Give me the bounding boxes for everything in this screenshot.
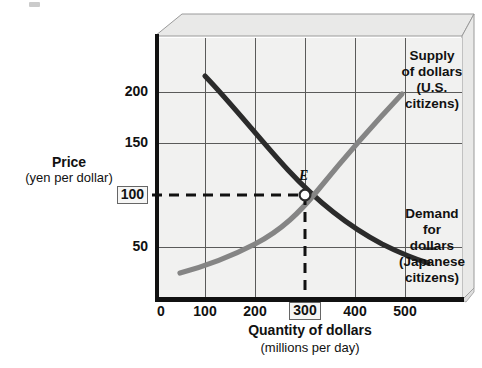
x-axis-title-sub: (millions per day) bbox=[160, 339, 460, 356]
y-tick-150: 150 bbox=[96, 134, 148, 152]
x-tick-500: 500 bbox=[385, 303, 425, 319]
demand-curve-label: Demand for dollars (Japanese citizens) bbox=[386, 206, 478, 286]
y-tick-100: 100 bbox=[96, 186, 148, 204]
x-tick-400: 400 bbox=[335, 303, 375, 319]
supply-curve-label: Supply of dollars (U.S. citizens) bbox=[386, 48, 478, 112]
y-axis-title-sub: (yen per dollar) bbox=[8, 170, 130, 186]
x-tick-200-label: 200 bbox=[243, 303, 266, 319]
y-tick-200-label: 200 bbox=[125, 83, 148, 99]
x-axis-title: Quantity of dollars (millions per day) bbox=[160, 322, 460, 356]
gridline-x-100 bbox=[205, 38, 206, 298]
exchange-rate-chart-figure: 200 150 100 50 0 100 200 300 400 500 Pri… bbox=[0, 0, 482, 368]
y-tick-150-label: 150 bbox=[125, 134, 148, 150]
x-tick-0: 0 bbox=[141, 303, 181, 319]
y-tick-50: 50 bbox=[96, 238, 148, 256]
x-axis-title-main: Quantity of dollars bbox=[160, 322, 460, 339]
y-tick-50-label: 50 bbox=[132, 238, 148, 254]
scan-artifact bbox=[29, 2, 40, 7]
x-tick-400-label: 400 bbox=[343, 303, 366, 319]
x-tick-300: 300 bbox=[285, 302, 325, 320]
y-axis-title: Price (yen per dollar) bbox=[8, 154, 130, 186]
x-tick-100: 100 bbox=[185, 303, 225, 319]
gridline-y-150 bbox=[158, 143, 462, 144]
y-axis-title-main: Price bbox=[8, 154, 130, 170]
x-tick-0-label: 0 bbox=[157, 303, 165, 319]
equilibrium-point-label: E bbox=[299, 168, 308, 184]
y-tick-200: 200 bbox=[96, 83, 148, 101]
gridline-x-200 bbox=[255, 38, 256, 298]
y-tick-100-label: 100 bbox=[117, 186, 148, 204]
x-tick-200: 200 bbox=[235, 303, 275, 319]
x-tick-300-label: 300 bbox=[289, 302, 320, 320]
x-tick-500-label: 500 bbox=[393, 303, 416, 319]
x-tick-100-label: 100 bbox=[193, 303, 216, 319]
y-axis-line bbox=[155, 34, 159, 302]
gridline-x-400 bbox=[355, 38, 356, 298]
